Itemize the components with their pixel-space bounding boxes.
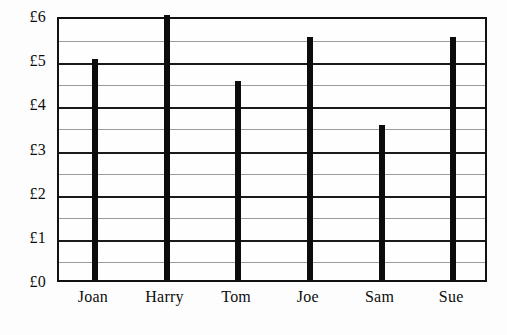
y-tick-label: £4: [30, 96, 46, 114]
bars-layer: [59, 19, 485, 280]
bar-sam: [379, 125, 385, 280]
bar-joe: [307, 37, 313, 280]
x-axis: JoanHarryTomJoeSamSue: [57, 288, 487, 318]
bar-chart: £0£1£2£3£4£5£6 JoanHarryTomJoeSamSue: [0, 0, 507, 335]
y-tick-label: £5: [30, 52, 46, 70]
bar-sue: [450, 37, 456, 280]
bar-tom: [235, 81, 241, 280]
x-tick-label-sue: Sue: [439, 288, 464, 306]
y-tick-label: £6: [30, 8, 46, 26]
y-tick-label: £1: [30, 229, 46, 247]
bar-joan: [92, 59, 98, 280]
y-tick-label: £0: [30, 273, 46, 291]
plot-area: [57, 17, 487, 282]
y-axis: £0£1£2£3£4£5£6: [0, 17, 52, 282]
x-tick-label-tom: Tom: [221, 288, 251, 306]
y-tick-label: £2: [30, 185, 46, 203]
x-tick-label-joan: Joan: [78, 288, 108, 306]
x-tick-label-sam: Sam: [365, 288, 394, 306]
x-tick-label-harry: Harry: [145, 288, 183, 306]
bar-harry: [164, 15, 170, 280]
y-tick-label: £3: [30, 141, 46, 159]
x-tick-label-joe: Joe: [297, 288, 319, 306]
